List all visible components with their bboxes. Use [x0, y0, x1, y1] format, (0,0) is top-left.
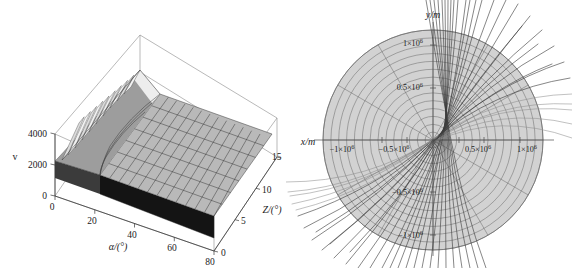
z-tick-0: 0: [221, 248, 226, 258]
alpha-axis-label: α/(°): [109, 241, 128, 253]
x-axis-label: x/m: [300, 136, 315, 147]
surface-3d-svg: 0 2000 4000 v 0 20 40 60 80 α/(°): [0, 0, 286, 268]
x-tick-pos05: 0.5×106: [465, 143, 491, 154]
panel-polar-trajectories: x/m y/m −1×106 −0.5×106 0.5×106 1×106 1×…: [286, 0, 572, 268]
alpha-tick-60: 60: [167, 243, 177, 253]
z-tick-5: 5: [241, 216, 246, 226]
alpha-tick-0: 0: [50, 202, 55, 212]
x-tick-neg05: −0.5×106: [379, 143, 410, 154]
y-tick-neg1: −1×106: [398, 229, 423, 240]
figure-container: 0 2000 4000 v 0 20 40 60 80 α/(°): [0, 0, 572, 268]
x-tick-neg1: −1×106: [330, 143, 355, 154]
z-tick-15: 15: [272, 152, 282, 162]
alpha-tick-40: 40: [127, 230, 137, 240]
z-tick-10: 10: [262, 185, 272, 195]
v-tick-0: 0: [42, 191, 47, 201]
v-axis-label: v: [13, 151, 18, 162]
v-tick-2000: 2000: [28, 160, 47, 170]
y-tick-pos05: 0.5×106: [397, 81, 423, 92]
v-tick-4000: 4000: [28, 129, 47, 139]
y-axis-label: y/m: [425, 9, 440, 20]
polar-svg: x/m y/m −1×106 −0.5×106 0.5×106 1×106 1×…: [286, 0, 572, 268]
axis-v: 0 2000 4000 v: [13, 129, 56, 201]
y-tick-neg05: −0.5×106: [392, 186, 423, 197]
polar-plot-group: x/m y/m −1×106 −0.5×106 0.5×106 1×106 1×…: [286, 0, 572, 268]
alpha-tick-80: 80: [205, 257, 215, 267]
z-axis-label: Z/(°): [263, 204, 283, 216]
panel-surface-3d: 0 2000 4000 v 0 20 40 60 80 α/(°): [0, 0, 286, 268]
alpha-tick-20: 20: [87, 216, 97, 226]
